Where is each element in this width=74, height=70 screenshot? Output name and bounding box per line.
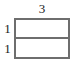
height-label-upper-strip: 1 [2,22,13,35]
width-label-top: 3 [0,2,74,15]
horizontal-divider-line [14,37,70,39]
figure-root: 3 1 1 [0,0,74,70]
height-label-lower-strip: 1 [2,42,13,55]
